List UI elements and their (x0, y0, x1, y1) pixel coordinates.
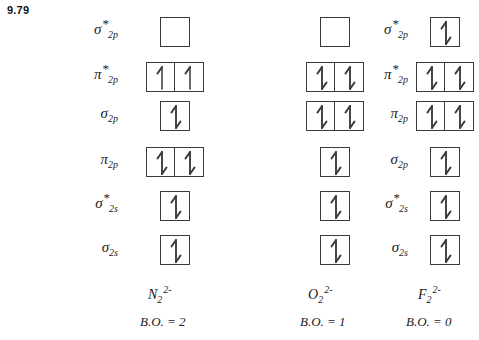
problem-number: 9.79 (7, 4, 29, 16)
orbital-box (306, 62, 336, 92)
electron-arrow-down (445, 63, 475, 93)
orbital-label-sigma-2p: σ2p (60, 106, 118, 121)
electron-arrow-down (147, 148, 177, 178)
greek-symbol: σ (102, 239, 109, 255)
orbital-box (430, 235, 460, 265)
electron-arrow-down (321, 236, 351, 266)
species-element-symbol: N (148, 287, 157, 302)
orbital-subscript: 2p (108, 113, 118, 124)
mo-diagram-canvas: 9.79 σ*2pπ*2pσ2pπ2pσ*2sσ2s σ*2pπ*2pπ2pσ2… (0, 0, 479, 340)
greek-symbol: π (384, 66, 392, 82)
species-element-symbol: F (418, 287, 427, 302)
left-label-row-5: σ2s (60, 240, 118, 255)
electron-arrow-down (335, 102, 365, 132)
greek-symbol: π (390, 105, 398, 121)
orbital-label-pi-star-2p: π*2p (60, 67, 118, 82)
species-charge-superscript: 2- (433, 284, 441, 295)
orbital-box (146, 62, 176, 92)
orbital-subscript: 2s (399, 203, 408, 214)
orbital-label-sigma-star-2s: σ*2s (60, 196, 118, 211)
orbital-box (320, 147, 350, 177)
species-element-symbol: O (308, 287, 318, 302)
orbital-box (146, 147, 176, 177)
orbital-box (334, 101, 364, 131)
left-orbital-label-column: σ*2pπ*2pσ2pπ2pσ*2sσ2s (60, 0, 118, 340)
electron-arrow-down (321, 148, 351, 178)
col-o2-level-sigma-2s (320, 235, 350, 265)
col-n2-level-pi-star-2p (146, 62, 205, 92)
left-label-row-2: σ2p (60, 106, 118, 121)
orbital-box (430, 17, 460, 47)
col-f2-level-sigma-2s (430, 235, 460, 265)
col-o2-level-pi-star-2p (306, 62, 365, 92)
electron-arrow-down (335, 63, 365, 93)
species-subscript: 2 (318, 294, 323, 305)
electron-arrow-up (175, 63, 205, 93)
col-f2-level-sigma-2p (430, 147, 460, 177)
orbital-box (430, 191, 460, 221)
col-f2-level-sigma-star-2p (430, 17, 460, 47)
orbital-subscript: 2p (108, 159, 118, 170)
orbital-subscript: 2s (109, 247, 118, 258)
species-label-f2: F22- (418, 288, 440, 302)
species-label-n2: N22- (148, 288, 171, 302)
left-label-row-1: π*2p (60, 67, 118, 82)
orbital-subscript: 2p (398, 74, 408, 85)
orbital-subscript: 2p (108, 29, 118, 40)
electron-arrow-up (147, 63, 177, 93)
greek-symbol: π (100, 151, 108, 167)
col-o2-level-sigma-star-2s (320, 191, 350, 221)
bond-order-f2: B.O. = 0 (406, 314, 452, 330)
orbital-label-sigma-star-2p: σ*2p (60, 22, 118, 37)
col-o2-level-pi-2p (306, 101, 365, 131)
col-o2-level-sigma-2p (320, 147, 350, 177)
greek-symbol: σ (384, 21, 391, 37)
species-subscript: 2 (157, 294, 162, 305)
orbital-subscript: 2p (398, 29, 408, 40)
orbital-subscript: 2p (398, 159, 408, 170)
bond-order-o2: B.O. = 1 (300, 314, 346, 330)
orbital-box (320, 17, 350, 47)
left-label-row-3: π2p (60, 152, 118, 167)
species-charge-superscript: 2- (324, 284, 332, 295)
orbital-subscript: 2s (109, 203, 118, 214)
electron-arrow-down (431, 18, 461, 48)
orbital-box (160, 191, 190, 221)
col-f2-level-pi-star-2p (416, 62, 475, 92)
orbital-subscript: 2s (399, 247, 408, 258)
electron-arrow-down (175, 148, 205, 178)
orbital-box (306, 101, 336, 131)
electron-arrow-down (431, 148, 461, 178)
orbital-label-sigma-2s: σ2s (60, 240, 118, 255)
electron-arrow-down (307, 102, 337, 132)
electron-arrow-down (417, 63, 447, 93)
orbital-box (444, 62, 474, 92)
orbital-box (320, 191, 350, 221)
electron-arrow-down (307, 63, 337, 93)
orbital-box (416, 101, 446, 131)
orbital-subscript: 2p (108, 74, 118, 85)
electron-arrow-down (161, 102, 191, 132)
greek-symbol: σ (94, 21, 101, 37)
species-label-o2: O22- (308, 288, 331, 302)
col-o2-level-sigma-star-2p (320, 17, 350, 47)
greek-symbol: σ (95, 195, 102, 211)
col-n2-level-sigma-star-2s (160, 191, 190, 221)
col-n2-level-sigma-2s (160, 235, 190, 265)
electron-arrow-down (417, 102, 447, 132)
col-n2-level-pi-2p (146, 147, 205, 177)
electron-arrow-down (431, 192, 461, 222)
left-label-row-0: σ*2p (60, 22, 118, 37)
electron-arrow-down (161, 236, 191, 266)
col-n2-level-sigma-2p (160, 101, 190, 131)
orbital-box (160, 101, 190, 131)
orbital-box (160, 235, 190, 265)
orbital-box (160, 17, 190, 47)
orbital-box (430, 147, 460, 177)
greek-symbol: σ (101, 105, 108, 121)
orbital-subscript: 2p (398, 113, 408, 124)
electron-arrow-down (445, 102, 475, 132)
electron-arrow-down (161, 192, 191, 222)
orbital-box (174, 62, 204, 92)
orbital-box (174, 147, 204, 177)
